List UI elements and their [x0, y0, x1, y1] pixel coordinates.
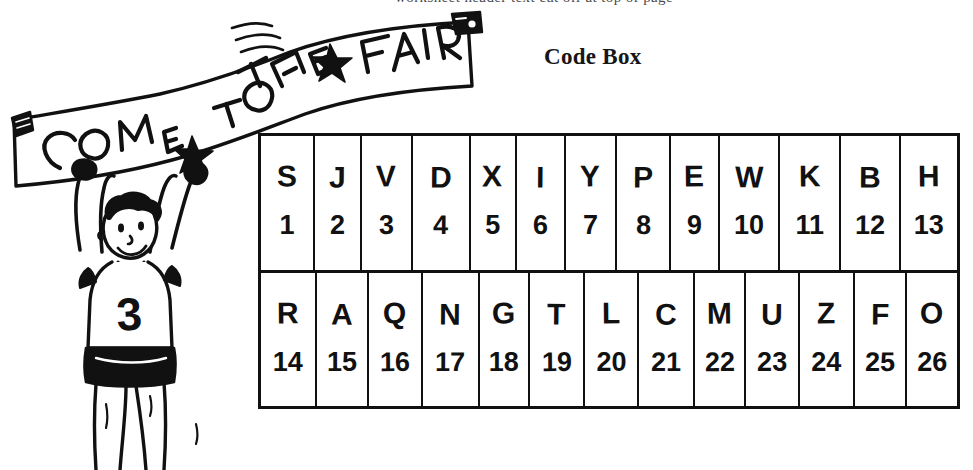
code-cell: R 14: [261, 273, 317, 407]
boy-left-arm: [76, 172, 90, 251]
boy-jersey-number: 3: [115, 287, 143, 340]
code-cell-letter: L: [602, 298, 621, 328]
code-cell-number: 6: [533, 212, 548, 239]
code-cell: E 9: [671, 136, 720, 270]
code-cell: I 6: [517, 136, 566, 270]
code-cell-number: 19: [541, 349, 571, 376]
code-cell: S 1: [261, 136, 315, 270]
code-cell: W 10: [720, 136, 781, 270]
code-cell: O 26: [907, 273, 957, 407]
code-cell-number: 11: [795, 212, 824, 239]
code-cell: H 13: [901, 136, 957, 270]
code-cell-letter: E: [684, 162, 705, 192]
code-cell-letter: R: [277, 298, 299, 328]
code-cell-letter: H: [918, 162, 940, 192]
worksheet-page: worksheet header text cut off at top of …: [0, 0, 973, 470]
code-cell-number: 10: [734, 212, 764, 239]
code-cell-letter: V: [376, 162, 397, 192]
code-cell-letter: X: [482, 162, 503, 192]
boy-legs: [95, 382, 166, 470]
code-cell-number: 18: [489, 349, 519, 376]
code-cell-number: 15: [327, 349, 357, 376]
code-cell: N 17: [423, 273, 480, 407]
code-cell: V 3: [362, 136, 413, 270]
code-cell-number: 12: [855, 212, 885, 239]
code-cell-number: 5: [485, 212, 500, 239]
code-cell-letter: G: [492, 298, 516, 328]
code-cell-number: 16: [380, 349, 410, 376]
page-title: Code Box: [544, 44, 642, 70]
code-cell: X 5: [471, 136, 517, 270]
code-cell-letter: Y: [580, 162, 601, 192]
code-cell: Z 24: [800, 273, 855, 407]
code-cell: G 18: [480, 273, 530, 407]
code-cell-letter: C: [655, 299, 677, 329]
code-cell-letter: F: [870, 299, 889, 329]
code-cell-number: 4: [433, 212, 448, 239]
code-box-table: S 1 J 2 V 3 D 4 X 5 I 6: [258, 133, 960, 409]
boy-left-hand: [72, 160, 96, 180]
code-cell: D 4: [413, 136, 471, 270]
code-cell: F 25: [855, 273, 908, 407]
code-cell-letter: S: [277, 162, 298, 192]
code-cell-number: 20: [596, 349, 626, 376]
code-cell-number: 14: [273, 349, 303, 376]
code-cell: B 12: [841, 136, 900, 270]
stray-ink-mark: [196, 424, 198, 444]
svg-text:3: 3: [115, 287, 143, 340]
code-cell-number: 2: [330, 212, 345, 239]
code-box-row-1: S 1 J 2 V 3 D 4 X 5 I 6: [261, 136, 957, 273]
code-cell-letter: I: [536, 163, 545, 193]
code-cell-number: 24: [811, 349, 841, 376]
code-cell-letter: N: [439, 299, 461, 329]
code-cell-number: 23: [757, 349, 787, 376]
code-cell-number: 1: [280, 212, 295, 239]
code-cell: C 21: [639, 273, 694, 407]
code-cell-number: 3: [379, 212, 394, 239]
boy-shorts: [85, 348, 176, 387]
code-cell-letter: Q: [383, 298, 407, 328]
code-cell: J 2: [315, 136, 362, 270]
code-cell-letter: T: [547, 299, 566, 329]
code-cell: M 22: [695, 273, 747, 407]
code-cell-letter: J: [329, 163, 346, 193]
code-cell: U 23: [746, 273, 799, 407]
code-cell-number: 9: [687, 212, 702, 239]
code-cell: T 19: [530, 273, 586, 407]
code-cell-letter: W: [734, 163, 763, 193]
code-cell: A 15: [317, 273, 370, 407]
code-cell-letter: Z: [817, 298, 836, 328]
code-cell-number: 21: [651, 349, 681, 376]
code-cell: P 8: [617, 136, 671, 270]
code-cell-number: 26: [917, 349, 947, 376]
code-box-row-2: R 14 A 15 Q 16 N 17 G 18 T 19: [261, 273, 957, 407]
code-cell-number: 22: [704, 349, 734, 376]
boy-right-hand: [184, 162, 207, 184]
code-cell-number: 7: [583, 212, 598, 239]
code-cell-number: 25: [865, 349, 895, 376]
code-cell-letter: A: [331, 299, 353, 329]
code-cell-letter: K: [798, 162, 820, 192]
code-cell-letter: P: [633, 163, 654, 193]
code-cell: L 20: [585, 273, 639, 407]
code-cell: Q 16: [369, 273, 422, 407]
code-cell-letter: D: [429, 163, 451, 193]
code-cell-letter: U: [761, 299, 783, 329]
motion-lines-icon: [232, 24, 283, 52]
code-cell-number: 17: [435, 349, 465, 376]
code-cell: Y 7: [566, 136, 618, 270]
code-cell-number: 8: [635, 212, 650, 239]
code-cell-letter: O: [920, 298, 944, 328]
code-cell-number: 13: [914, 212, 944, 239]
code-cell-letter: M: [707, 298, 733, 328]
code-cell-letter: B: [859, 163, 881, 193]
code-cell: K 11: [780, 136, 841, 270]
